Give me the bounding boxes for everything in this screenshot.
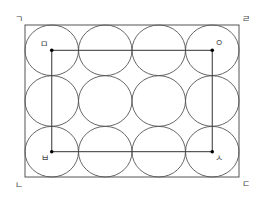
point-label-top-right: ㅇ (215, 39, 223, 48)
center-dot-top-right (210, 49, 214, 53)
corner-label-bottom-left: ㄴ (15, 181, 23, 190)
corner-label-bottom-right: ㄷ (242, 180, 250, 189)
point-label-bottom-left: ㅂ (41, 154, 49, 163)
center-dot-bottom-right (210, 150, 214, 154)
grid-circle (79, 76, 133, 127)
center-dot-bottom-left (50, 150, 54, 154)
point-label-bottom-right: ㅅ (215, 154, 223, 163)
circle-packing-diagram (0, 0, 267, 201)
circle-grid (25, 25, 239, 177)
center-dot-top-left (50, 49, 54, 53)
corner-label-top-right: ㄹ (242, 15, 250, 24)
corner-label-top-left: ㄱ (15, 15, 23, 24)
point-label-top-left: ㅁ (40, 40, 48, 49)
grid-circle (132, 76, 186, 127)
